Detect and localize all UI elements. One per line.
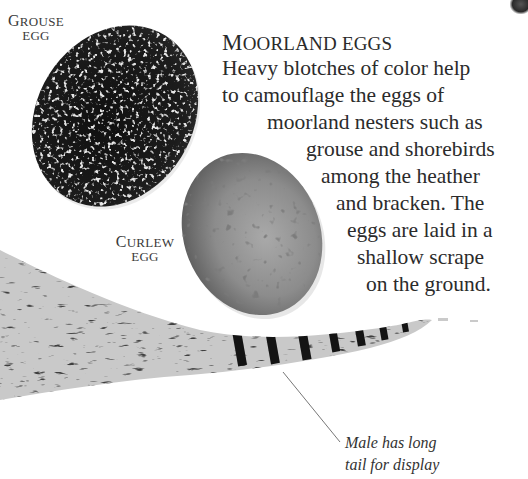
body-line-1: Heavy blotches of color help bbox=[222, 54, 470, 83]
caption-line-2: tail for display bbox=[345, 454, 439, 476]
tail-caption: Male has long tail for display bbox=[345, 432, 439, 476]
label-initial: G bbox=[8, 12, 20, 29]
heading-rest: OORLAND EGGS bbox=[243, 33, 393, 54]
heading-initial: M bbox=[222, 30, 243, 55]
caption-line-1: Male has long bbox=[345, 432, 439, 454]
body-line-7: eggs are laid in a bbox=[347, 216, 493, 245]
body-line-9: on the ground. bbox=[366, 270, 491, 299]
body-line-6: and bracken. The bbox=[336, 189, 484, 218]
grouse-egg-image bbox=[20, 18, 200, 213]
grouse-egg-label: GROUSE EGG bbox=[6, 14, 66, 43]
body-line-2: to camouflage the eggs of bbox=[222, 81, 444, 110]
label-rest: ROUSE bbox=[20, 14, 64, 29]
body-line-4: grouse and shorebirds bbox=[306, 135, 495, 164]
body-line-3: moorland nesters such as bbox=[267, 108, 483, 137]
body-line-8: shallow scrape bbox=[357, 243, 484, 272]
body-line-5: among the heather bbox=[321, 162, 480, 191]
section-heading: MOORLAND EGGS bbox=[222, 31, 392, 56]
label-line2: EGG bbox=[6, 29, 66, 43]
corner-image-fragment bbox=[510, 0, 528, 14]
